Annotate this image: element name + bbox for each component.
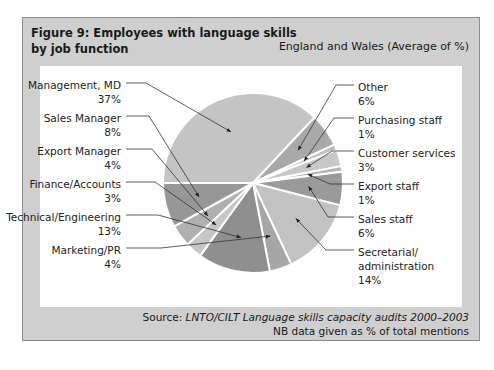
label-sales-staff: Sales staff 6% <box>358 212 413 240</box>
label-text: Sales Manager <box>44 111 121 125</box>
label-value: 14% <box>358 273 434 287</box>
label-technical: Technical/Engineering 13% <box>6 210 121 238</box>
label-management: Management, MD 37% <box>28 78 121 106</box>
label-sales-manager: Sales Manager 8% <box>44 111 121 139</box>
label-value: 6% <box>358 226 413 240</box>
label-secretarial: Secretarial/ administration 14% <box>358 245 434 287</box>
label-value: 3% <box>29 191 121 205</box>
label-value: 6% <box>358 94 388 108</box>
label-text: Marketing/PR <box>52 243 122 257</box>
source-line: Source: LNTO/CILT Language skills capaci… <box>143 310 469 324</box>
label-text: Export Manager <box>37 144 121 158</box>
label-value: 8% <box>44 125 121 139</box>
label-other: Other 6% <box>358 80 388 108</box>
label-text: Customer services <box>358 146 455 160</box>
label-text: Purchasing staff <box>358 113 442 127</box>
source-prefix: Source: <box>143 311 186 323</box>
label-value: 3% <box>358 160 455 174</box>
source-citation: LNTO/CILT Language skills capacity audit… <box>186 311 469 323</box>
label-value: 37% <box>28 92 121 106</box>
label-text: Export staff <box>358 179 419 193</box>
label-export-manager: Export Manager 4% <box>37 144 121 172</box>
source-note: Source: LNTO/CILT Language skills capaci… <box>143 310 469 338</box>
label-text: Secretarial/ <box>358 245 434 259</box>
label-text: Finance/Accounts <box>29 177 121 191</box>
label-value: 1% <box>358 127 442 141</box>
label-text: Other <box>358 80 388 94</box>
label-value: 1% <box>358 193 419 207</box>
label-text: Technical/Engineering <box>6 210 121 224</box>
label-value: 13% <box>6 224 121 238</box>
label-purchasing: Purchasing staff 1% <box>358 113 442 141</box>
label-value: 4% <box>37 158 121 172</box>
label-text-2: administration <box>358 259 434 273</box>
label-value: 4% <box>52 257 122 271</box>
label-marketing: Marketing/PR 4% <box>52 243 122 271</box>
label-finance: Finance/Accounts 3% <box>29 177 121 205</box>
data-note: NB data given as % of total mentions <box>143 324 469 338</box>
label-export-staff: Export staff 1% <box>358 179 419 207</box>
label-text: Sales staff <box>358 212 413 226</box>
label-customer-services: Customer services 3% <box>358 146 455 174</box>
label-text: Management, MD <box>28 78 121 92</box>
